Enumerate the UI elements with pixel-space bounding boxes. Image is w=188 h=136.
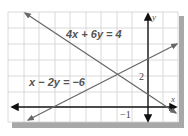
x-axis-label: x [170, 94, 175, 104]
x-tick-label: −1 [120, 109, 131, 120]
y-tick-label: 2 [139, 71, 144, 82]
y-axis-label: y [151, 12, 156, 22]
coordinate-graph: 4x + 6y = 4 x − 2y = −6 2 −1 x y [0, 0, 188, 136]
equation-label-1: 4x + 6y = 4 [65, 28, 122, 40]
equation-label-2: x − 2y = −6 [28, 76, 86, 88]
